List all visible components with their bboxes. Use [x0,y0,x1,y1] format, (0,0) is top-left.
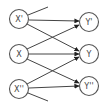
node-label: Y' [84,18,92,27]
node-label: X'' [14,85,24,94]
edge-xp-yp [29,20,79,21]
stub-xpp-down [28,93,48,101]
node-label: X' [15,15,23,24]
node-y: Y [80,45,99,64]
stub-xp-up [28,7,48,15]
node-x: X [10,45,29,64]
edge-xpp-ypp [29,86,79,88]
node-y-double-prime: Y'' [80,77,99,96]
node-label: Y'' [83,82,93,91]
node-y-prime: Y' [80,13,99,32]
bipartite-diagram: X' X X'' Y' Y Y'' [0,0,110,105]
node-x-double-prime: X'' [10,80,29,99]
node-label: X [16,50,22,59]
node-label: Y [86,50,92,59]
node-x-prime: X' [10,10,29,29]
